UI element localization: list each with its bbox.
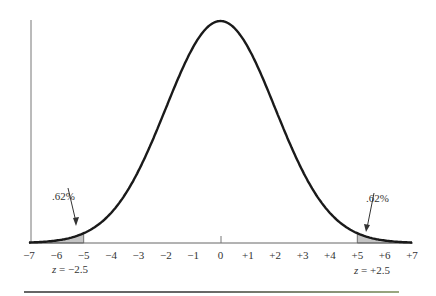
x-tick-label: +1 <box>242 249 254 261</box>
x-tick-label: +3 <box>297 249 309 261</box>
bottom-rule <box>24 291 199 293</box>
right-z-label: z = +2.5 <box>354 264 390 276</box>
x-tick-label: −5 <box>78 249 90 261</box>
x-tick-label: 0 <box>218 249 224 261</box>
x-tick-label: −2 <box>160 249 172 261</box>
bottom-rule-right <box>199 291 399 293</box>
right-percent-label: .62% <box>366 192 389 204</box>
x-tick-label: −1 <box>187 249 199 261</box>
x-tick-label: −7 <box>23 249 35 261</box>
left-percent-label: .62% <box>52 190 75 202</box>
x-tick-label: +7 <box>406 249 418 261</box>
x-tick-label: +2 <box>269 249 281 261</box>
x-tick-label: −4 <box>105 249 117 261</box>
x-tick-label: −3 <box>133 249 145 261</box>
left-z-label: z = −2.5 <box>52 263 88 275</box>
x-tick-label: +4 <box>324 249 336 261</box>
x-tick-label: −6 <box>50 249 62 261</box>
x-tick-label: +6 <box>379 249 391 261</box>
x-tick-label: +5 <box>351 249 363 261</box>
normal-curve <box>29 21 412 243</box>
